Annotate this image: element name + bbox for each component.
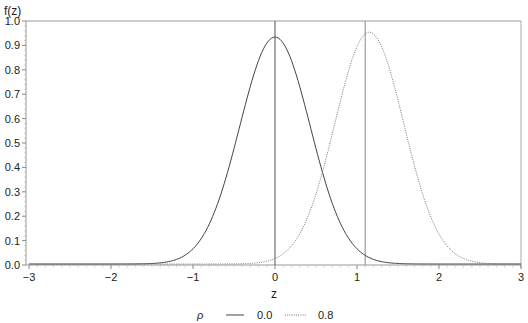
y-tick-label: 0.1 bbox=[5, 235, 20, 247]
x-tick-label: −1 bbox=[187, 271, 200, 283]
legend-title: ρ bbox=[196, 309, 203, 321]
y-tick-label: 0.7 bbox=[5, 88, 20, 100]
y-tick-label: 0.9 bbox=[5, 39, 20, 51]
legend: ρ 0.0 0.8 bbox=[196, 309, 333, 321]
x-tick-label: −3 bbox=[23, 271, 36, 283]
x-axis-title: z bbox=[271, 287, 277, 301]
x-axis: −3−2−10123 bbox=[23, 265, 524, 283]
x-tick-label: 1 bbox=[354, 271, 360, 283]
reference-lines bbox=[275, 21, 365, 265]
density-chart: f(z) 0.00.10.20.30.40.50.60.70.80.91.0 −… bbox=[0, 0, 528, 323]
plot-frame bbox=[26, 21, 521, 268]
y-tick-label: 0.5 bbox=[5, 137, 20, 149]
y-tick-label: 0.6 bbox=[5, 113, 20, 125]
y-tick-label: 0.8 bbox=[5, 64, 20, 76]
y-tick-label: 0.0 bbox=[5, 259, 20, 271]
y-tick-label: 0.3 bbox=[5, 186, 20, 198]
y-axis: 0.00.10.20.30.40.50.60.70.80.91.0 bbox=[5, 15, 26, 271]
y-tick-label: 0.2 bbox=[5, 210, 20, 222]
x-tick-label: 2 bbox=[436, 271, 442, 283]
x-tick-label: 0 bbox=[272, 271, 278, 283]
x-tick-label: 3 bbox=[518, 271, 524, 283]
x-tick-label: −2 bbox=[105, 271, 118, 283]
legend-label-0: 0.0 bbox=[257, 309, 272, 321]
y-tick-label: 0.4 bbox=[5, 161, 20, 173]
y-tick-label: 1.0 bbox=[5, 15, 20, 27]
legend-label-1: 0.8 bbox=[318, 309, 333, 321]
